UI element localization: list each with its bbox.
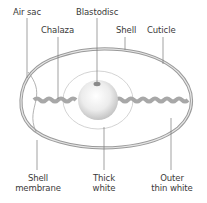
- label-air-sac: Air sac: [13, 7, 41, 17]
- chalaza-right: [116, 99, 188, 102]
- label-blastodisc: Blastodisc: [76, 7, 118, 17]
- blastodisc: [94, 82, 101, 86]
- label-chalaza: Chalaza: [41, 25, 74, 35]
- label-outer-thin-white: Outer thin white: [146, 173, 198, 193]
- chalaza-left: [34, 99, 76, 102]
- label-thick-white: Thick white: [84, 173, 124, 193]
- label-cuticle: Cuticle: [147, 25, 176, 35]
- label-shell-membrane: Shell membrane: [14, 173, 62, 193]
- label-shell: Shell: [116, 25, 136, 35]
